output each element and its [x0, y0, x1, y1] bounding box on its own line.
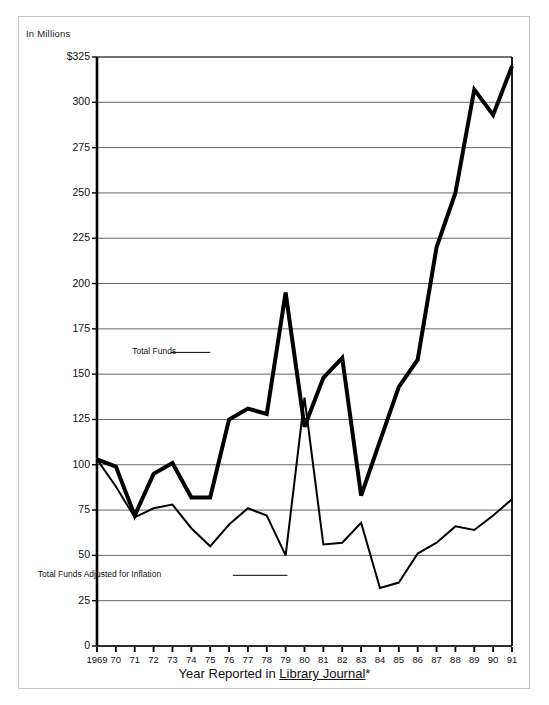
- y-axis-tick-label: 0: [42, 639, 90, 651]
- y-axis-tick-label: 275: [42, 141, 90, 153]
- y-axis-tick-label: 50: [42, 548, 90, 560]
- y-axis-tick-label: 300: [42, 95, 90, 107]
- x-axis-title-journal: Library Journal: [279, 666, 365, 681]
- x-axis-title-prefix: Year Reported in: [179, 666, 280, 681]
- y-axis-tick-label: 200: [42, 277, 90, 289]
- y-axis-tick-label: 175: [42, 322, 90, 334]
- y-axis-tick-label: 250: [42, 186, 90, 198]
- chart-figure: In Millions $325300275250225200175150125…: [0, 0, 549, 705]
- y-axis-tick-label: 225: [42, 231, 90, 243]
- y-axis-tick-label: 100: [42, 458, 90, 470]
- x-axis-title-suffix: *: [365, 666, 370, 681]
- x-axis-title: Year Reported in Library Journal*: [0, 666, 549, 681]
- x-axis-tick-label: 91: [501, 654, 523, 665]
- annotation-total-funds-adjusted: Total Funds Adjusted for Inflation: [38, 569, 161, 579]
- series-line-total-funds: [97, 66, 512, 515]
- y-axis-tick-label: 75: [42, 503, 90, 515]
- annotation-total-funds: Total Funds: [132, 346, 176, 356]
- y-axis-tick-label: 125: [42, 412, 90, 424]
- y-axis-tick-label: $325: [42, 50, 90, 62]
- y-axis-tick-label: 25: [42, 594, 90, 606]
- y-axis-tick-label: 150: [42, 367, 90, 379]
